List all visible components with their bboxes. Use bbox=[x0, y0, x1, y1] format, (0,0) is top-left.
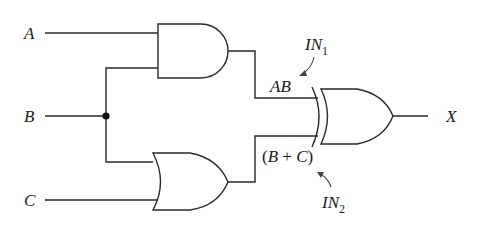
input-label-a: A bbox=[23, 24, 35, 43]
input-label-c: C bbox=[24, 191, 36, 210]
arrowhead-in2 bbox=[317, 172, 324, 178]
output-label-x: X bbox=[445, 107, 457, 126]
wire-b-branch bbox=[106, 68, 158, 162]
annotation-in2: IN2 bbox=[321, 193, 345, 216]
xor-input-arc bbox=[312, 87, 319, 147]
logic-circuit-diagram: A B C X AB (B + C) IN1 IN2 bbox=[0, 0, 478, 234]
or-gate bbox=[153, 153, 228, 210]
input-label-b: B bbox=[24, 107, 35, 126]
and-gate bbox=[158, 24, 228, 78]
label-ab: AB bbox=[269, 77, 291, 96]
annotation-in1: IN1 bbox=[304, 35, 328, 58]
xor-gate bbox=[321, 89, 393, 144]
junction-dot bbox=[102, 112, 109, 119]
label-b-plus-c: (B + C) bbox=[262, 147, 313, 166]
